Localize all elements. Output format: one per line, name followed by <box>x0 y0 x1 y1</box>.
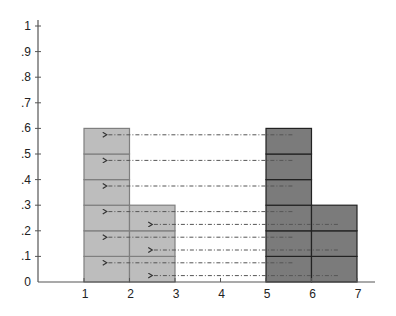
y-tick-label: .7 <box>21 96 31 110</box>
target-bar-2-cell-3 <box>312 205 358 231</box>
target-bar-2-cell-2 <box>312 231 358 257</box>
x-tick-label: 7 <box>355 287 362 301</box>
source-bar-1-cell-5 <box>84 154 130 180</box>
x-tick-label: 5 <box>264 287 271 301</box>
y-tick-label: .8 <box>21 70 31 84</box>
source-bar-1-cell-1 <box>84 256 130 282</box>
x-tick-label: 3 <box>173 287 180 301</box>
y-tick-label: .3 <box>21 198 31 212</box>
y-tick-label: 1 <box>24 19 31 33</box>
bars-layer <box>84 128 357 282</box>
y-tick-label: .9 <box>21 45 31 59</box>
y-tick-label: .6 <box>21 121 31 135</box>
x-tick-label: 1 <box>82 287 89 301</box>
source-bar-2-cell-2 <box>130 231 176 257</box>
target-bar-2-cell-1 <box>312 256 358 282</box>
target-bar-1-cell-3 <box>266 205 312 231</box>
x-tick-label: 4 <box>218 287 225 301</box>
chart: 0.1.2.3.4.5.6.7.8.911234567 <box>0 0 396 316</box>
source-bar-1-cell-4 <box>84 180 130 206</box>
target-bar-1-cell-2 <box>266 231 312 257</box>
target-bar-1-cell-1 <box>266 256 312 282</box>
x-tick-label: 6 <box>309 287 316 301</box>
y-tick-label: .1 <box>21 249 31 263</box>
target-bar-1-cell-4 <box>266 180 312 206</box>
y-tick-label: .2 <box>21 224 31 238</box>
source-bar-1-cell-3 <box>84 205 130 231</box>
y-tick-label: .5 <box>21 147 31 161</box>
target-bar-1-cell-5 <box>266 154 312 180</box>
x-tick-label: 2 <box>127 287 134 301</box>
source-bar-1-cell-2 <box>84 231 130 257</box>
y-tick-label: .4 <box>21 173 31 187</box>
source-bar-2-cell-1 <box>130 256 176 282</box>
target-bar-1-cell-6 <box>266 128 312 154</box>
source-bar-2-cell-3 <box>130 205 176 231</box>
source-bar-1-cell-6 <box>84 128 130 154</box>
y-tick-label: 0 <box>24 275 31 289</box>
